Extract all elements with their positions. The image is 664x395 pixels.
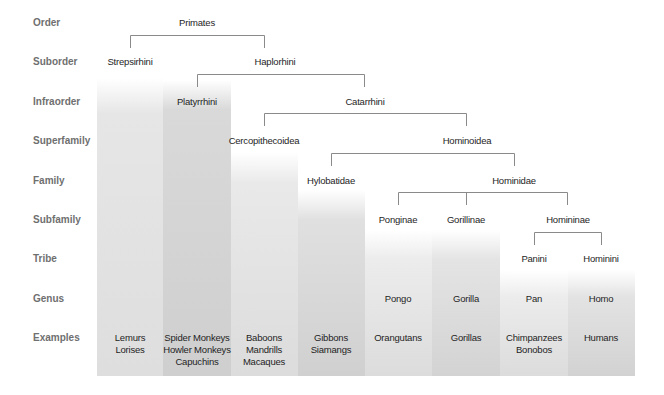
example-line: Baboons <box>243 332 285 344</box>
example-line: Spider Monkeys <box>163 332 230 344</box>
examples-cercopithecoidea: Baboons Mandrills Macaques <box>243 332 285 368</box>
taxon-haplorhini: Haplorhini <box>255 56 296 67</box>
example-line: Howler Monkeys <box>163 344 230 356</box>
example-line: Lorises <box>115 344 145 356</box>
taxon-hominidae: Hominidae <box>492 175 536 186</box>
taxon-gorillinae: Gorillinae <box>447 214 485 225</box>
examples-pongo: Orangutans <box>374 332 422 344</box>
examples-platyrrhini: Spider Monkeys Howler Monkeys Capuchins <box>163 332 230 368</box>
example-line: Orangutans <box>374 332 422 344</box>
taxon-hominoidea: Hominoidea <box>443 135 492 146</box>
examples-strepsirhini: Lemurs Lorises <box>115 332 145 356</box>
example-line: Lemurs <box>115 332 145 344</box>
taxon-pan: Pan <box>526 293 542 304</box>
examples-pan: Chimpanzees Bonobos <box>506 332 562 356</box>
example-line: Siamangs <box>311 344 352 356</box>
taxon-pongo: Pongo <box>385 293 411 304</box>
example-line: Gorillas <box>451 332 482 344</box>
taxon-hylobatidae: Hylobatidae <box>307 175 355 186</box>
example-line: Capuchins <box>163 356 230 368</box>
examples-hylobatidae: Gibbons Siamangs <box>311 332 352 356</box>
examples-homo: Humans <box>584 332 618 344</box>
example-line: Gibbons <box>311 332 352 344</box>
example-line: Chimpanzees <box>506 332 562 344</box>
taxon-hominini: Hominini <box>583 253 618 264</box>
taxon-homininae: Homininae <box>546 214 590 225</box>
taxon-platyrrhini: Platyrrhini <box>177 96 217 107</box>
example-line: Mandrills <box>243 344 285 356</box>
example-line: Macaques <box>243 356 285 368</box>
taxon-primates: Primates <box>179 17 215 28</box>
taxon-homo: Homo <box>589 293 614 304</box>
example-line: Bonobos <box>506 344 562 356</box>
taxon-panini: Panini <box>521 253 546 264</box>
examples-gorilla: Gorillas <box>451 332 482 344</box>
taxon-catarrhini: Catarrhini <box>345 96 384 107</box>
taxon-ponginae: Ponginae <box>379 214 418 225</box>
taxon-strepsirhini: Strepsirhini <box>107 56 152 67</box>
taxon-gorilla: Gorilla <box>453 293 479 304</box>
example-line: Humans <box>584 332 618 344</box>
taxon-cercopithecoidea: Cercopithecoidea <box>229 135 300 146</box>
